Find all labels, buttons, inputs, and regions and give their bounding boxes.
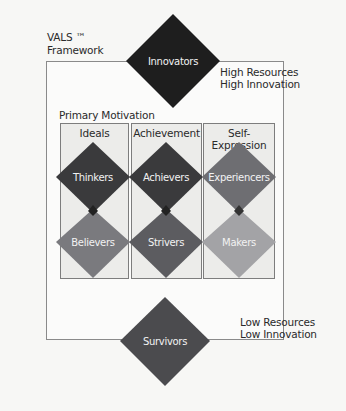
segment-label-innovators: Innovators <box>148 56 198 67</box>
segment-strivers: Strivers <box>129 209 203 278</box>
segment-label-survivors: Survivors <box>143 336 187 347</box>
segment-innovators: Innovators <box>126 14 220 108</box>
segment-label-achievers: Achievers <box>143 172 189 183</box>
segment-label-believers: Believers <box>71 237 115 248</box>
segment-survivors: Survivors <box>120 297 210 386</box>
segment-makers: Makers <box>202 209 276 278</box>
segment-achievers: Achievers <box>129 142 203 213</box>
segment-label-makers: Makers <box>222 237 256 248</box>
segments-diagram: Innovators Believers Strivers Makers Thi… <box>0 0 346 411</box>
segment-label-thinkers: Thinkers <box>72 172 113 183</box>
segment-experiencers: Experiencers <box>202 142 276 213</box>
segment-label-strivers: Strivers <box>148 237 184 248</box>
segment-believers: Believers <box>56 209 130 278</box>
segment-thinkers: Thinkers <box>56 142 130 213</box>
segment-label-experiencers: Experiencers <box>208 172 270 183</box>
